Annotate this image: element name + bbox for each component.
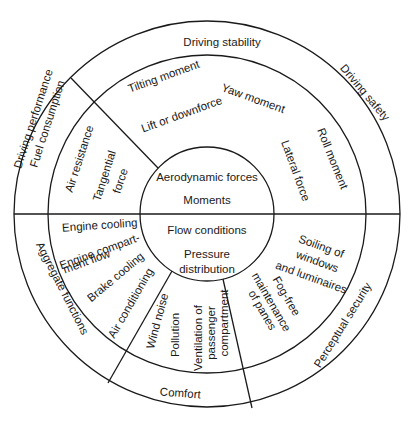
outer-comfort: Comfort — [159, 386, 201, 401]
center-moments: Moments — [183, 194, 231, 206]
air-resistance: Air resistance — [63, 124, 96, 194]
center-distribution: distribution — [179, 263, 235, 275]
center-pressure: Pressure — [184, 248, 230, 260]
ventilation-passenger: passenger — [205, 306, 217, 360]
engine-cooling: Engine cooling — [62, 216, 138, 233]
ventilation-compartment: compartment — [218, 289, 230, 357]
yaw-moment: Yaw moment — [220, 81, 287, 115]
wind-noise: Wind noise — [144, 292, 170, 350]
aerodynamics-circle-diagram: Aerodynamic forces Moments Flow conditio… — [0, 0, 412, 429]
ventilation-of: Ventilation of — [192, 304, 204, 371]
outer-driving-safety: Driving safety — [338, 62, 392, 123]
lateral-force: Lateral force — [279, 139, 312, 203]
lift-or-downforce: Lift or downforce — [140, 94, 224, 134]
pollution: Pollution — [169, 313, 181, 357]
tangential: Tangential — [90, 149, 118, 203]
center-aerodynamic-forces: Aerodynamic forces — [156, 171, 258, 183]
tilting-moment: Tilting moment — [126, 58, 201, 95]
center-flow-conditions: Flow conditions — [167, 224, 247, 236]
outer-driving-stability: Driving stability — [183, 36, 261, 48]
tangential-force: force — [111, 167, 130, 195]
